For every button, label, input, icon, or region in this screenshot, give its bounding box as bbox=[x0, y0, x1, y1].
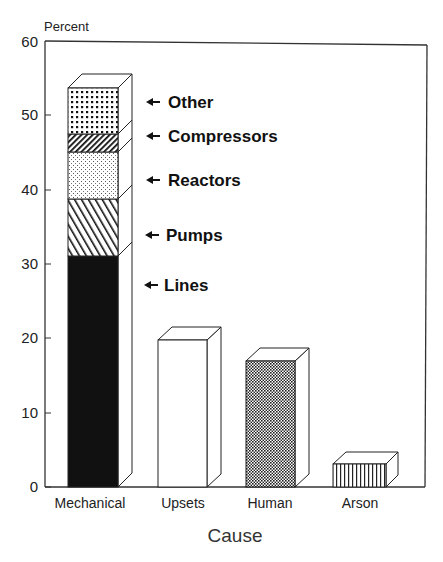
annotation-label: Reactors bbox=[168, 171, 241, 190]
category-label: Human bbox=[247, 495, 292, 511]
y-axis-title: Percent bbox=[44, 19, 89, 34]
segment-annotations: Other Compressors Reactors Pumps Lines bbox=[144, 93, 278, 295]
y-tick-label: 10 bbox=[21, 404, 38, 421]
bar-mechanical bbox=[68, 74, 132, 487]
annotation-reactors: Reactors bbox=[146, 171, 241, 190]
y-tick-label: 40 bbox=[21, 181, 38, 198]
annotation-compressors: Compressors bbox=[146, 127, 278, 146]
x-axis-title: Cause bbox=[208, 525, 263, 546]
segment-lines bbox=[68, 256, 118, 487]
segment-compressors bbox=[68, 134, 118, 152]
annotation-label: Compressors bbox=[168, 127, 278, 146]
category-label: Arson bbox=[342, 495, 379, 511]
y-tick-label: 50 bbox=[21, 106, 38, 123]
y-tick-label: 0 bbox=[30, 478, 38, 495]
stacked-bar-chart: 0 10 20 30 40 50 60 Percent Other bbox=[0, 0, 443, 562]
y-tick-label: 30 bbox=[21, 255, 38, 272]
category-label: Upsets bbox=[161, 495, 205, 511]
annotation-other: Other bbox=[146, 93, 214, 112]
segment-pumps bbox=[68, 199, 118, 256]
annotation-label: Other bbox=[168, 93, 214, 112]
segment-other bbox=[68, 88, 118, 134]
bar-human bbox=[246, 348, 309, 487]
y-tick-label: 60 bbox=[21, 33, 38, 50]
category-label: Mechanical bbox=[55, 495, 126, 511]
y-tick-label: 20 bbox=[21, 329, 38, 346]
segment-reactors bbox=[68, 152, 118, 199]
annotation-label: Lines bbox=[164, 276, 208, 295]
bar-upsets bbox=[158, 327, 221, 487]
bar-arson bbox=[333, 452, 398, 487]
annotation-pumps: Pumps bbox=[145, 226, 223, 245]
annotation-lines: Lines bbox=[144, 276, 208, 295]
annotation-label: Pumps bbox=[166, 226, 223, 245]
x-axis-categories: Mechanical Upsets Human Arson bbox=[55, 495, 379, 511]
